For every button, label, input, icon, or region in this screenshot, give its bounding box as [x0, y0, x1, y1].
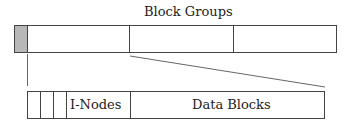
diagram-title: Block Groups — [144, 4, 233, 19]
block-groups-bar — [28, 26, 337, 53]
inodes-label: I-Nodes — [70, 97, 121, 112]
data-blocks-label: Data Blocks — [192, 97, 271, 112]
zoom-line-right — [130, 56, 325, 87]
superblock-segment — [15, 26, 28, 53]
